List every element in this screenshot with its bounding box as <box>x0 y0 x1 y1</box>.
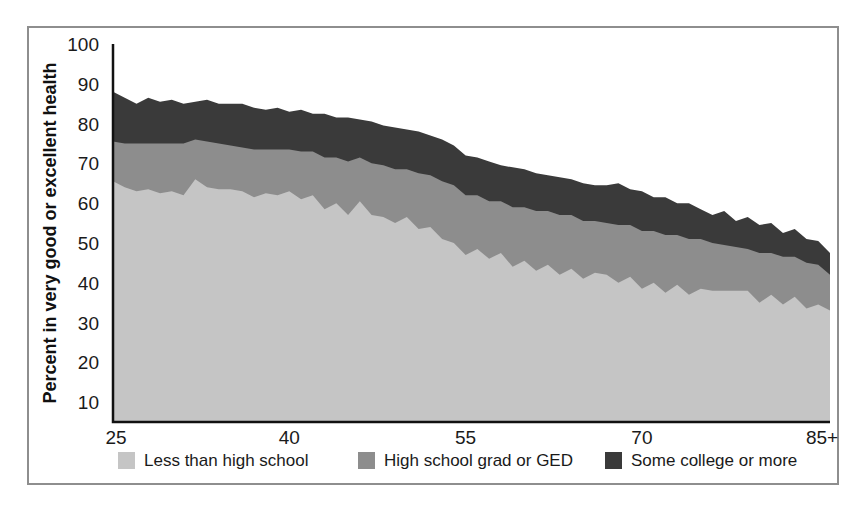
x-tick-label: 55 <box>455 427 476 448</box>
y-tick-label: 90 <box>78 74 99 95</box>
y-tick-label: 100 <box>67 34 99 55</box>
x-tick-label: 40 <box>279 427 300 448</box>
y-axis-title: Percent in very good or excellent health <box>40 62 60 403</box>
x-tick-label: 70 <box>631 427 652 448</box>
chart-legend: Less than high schoolHigh school grad or… <box>118 451 797 470</box>
y-tick-label: 30 <box>78 313 99 334</box>
legend-label: Some college or more <box>631 451 797 470</box>
legend-label: Less than high school <box>144 451 308 470</box>
x-tick-label: 25 <box>105 427 126 448</box>
y-axis-title-text: Percent in very good or excellent health <box>40 62 60 403</box>
y-tick-label: 50 <box>78 233 99 254</box>
x-axis-tick-labels: 2540557085+ <box>105 427 838 448</box>
chart-figure: 102030405060708090100 2540557085+ Percen… <box>0 0 864 514</box>
y-tick-label: 60 <box>78 193 99 214</box>
y-tick-label: 40 <box>78 273 99 294</box>
stacked-area-chart: 102030405060708090100 2540557085+ Percen… <box>0 0 864 514</box>
y-tick-label: 20 <box>78 352 99 373</box>
x-tick-label: 85+ <box>806 427 838 448</box>
legend-label: High school grad or GED <box>384 451 573 470</box>
y-tick-label: 70 <box>78 153 99 174</box>
legend-swatch <box>605 452 622 469</box>
area-series-group <box>113 92 830 422</box>
y-tick-label: 80 <box>78 114 99 135</box>
y-tick-label: 10 <box>78 392 99 413</box>
legend-swatch <box>118 452 135 469</box>
y-axis-tick-labels: 102030405060708090100 <box>67 34 99 413</box>
legend-swatch <box>358 452 375 469</box>
